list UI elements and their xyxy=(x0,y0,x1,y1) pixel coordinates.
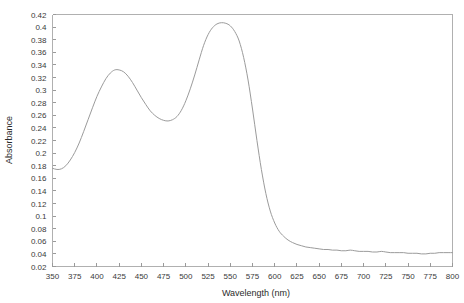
x-tick-label: 525 xyxy=(201,272,215,281)
y-tick-label: 0.06 xyxy=(31,237,47,246)
absorbance-spectrum-chart: 3503754004254504755005255505756006256506… xyxy=(0,0,464,303)
x-tick-label: 500 xyxy=(179,272,193,281)
x-tick-label: 400 xyxy=(90,272,104,281)
y-tick-label: 0.08 xyxy=(31,225,47,234)
chart-canvas: 3503754004254504755005255505756006256506… xyxy=(0,0,464,303)
x-tick-label: 425 xyxy=(112,272,126,281)
y-tick-label: 0.12 xyxy=(31,200,47,209)
x-tick-label: 575 xyxy=(246,272,260,281)
y-tick-label: 0.16 xyxy=(31,174,47,183)
x-tick-label: 450 xyxy=(135,272,149,281)
x-tick-label: 650 xyxy=(312,272,326,281)
y-tick-label: 0.34 xyxy=(31,61,47,70)
y-tick-label: 0.24 xyxy=(31,124,47,133)
y-tick-label: 0.4 xyxy=(35,23,47,32)
y-tick-label: 0.18 xyxy=(31,162,47,171)
y-axis-tick-marks xyxy=(53,15,57,267)
x-tick-label: 775 xyxy=(424,272,438,281)
y-axis-title: Absorbance xyxy=(4,116,14,164)
x-tick-label: 750 xyxy=(401,272,415,281)
y-tick-label: 0.38 xyxy=(31,36,47,45)
y-tick-label: 0.02 xyxy=(31,263,47,272)
y-tick-label: 0.26 xyxy=(31,111,47,120)
y-tick-label: 0.42 xyxy=(31,11,47,20)
x-axis-title: Wavelength (nm) xyxy=(222,288,290,298)
y-tick-label: 0.28 xyxy=(31,99,47,108)
x-tick-label: 600 xyxy=(268,272,282,281)
y-tick-label: 0.32 xyxy=(31,74,47,83)
chart-background xyxy=(0,0,464,303)
x-tick-label: 350 xyxy=(46,272,60,281)
y-tick-label: 0.22 xyxy=(31,137,47,146)
x-tick-label: 700 xyxy=(357,272,371,281)
y-tick-label: 0.3 xyxy=(35,86,47,95)
x-tick-label: 550 xyxy=(224,272,238,281)
y-tick-label: 0.1 xyxy=(35,212,47,221)
x-tick-label: 675 xyxy=(335,272,349,281)
x-tick-label: 725 xyxy=(379,272,393,281)
y-tick-label: 0.04 xyxy=(31,250,47,259)
y-axis-tick-labels: 0.020.040.060.080.10.120.140.160.180.20.… xyxy=(31,11,47,272)
y-tick-label: 0.14 xyxy=(31,187,47,196)
y-tick-label: 0.2 xyxy=(35,149,47,158)
x-tick-label: 625 xyxy=(290,272,304,281)
x-tick-label: 375 xyxy=(68,272,82,281)
y-tick-label: 0.36 xyxy=(31,48,47,57)
x-tick-label: 800 xyxy=(446,272,460,281)
x-tick-label: 475 xyxy=(157,272,171,281)
